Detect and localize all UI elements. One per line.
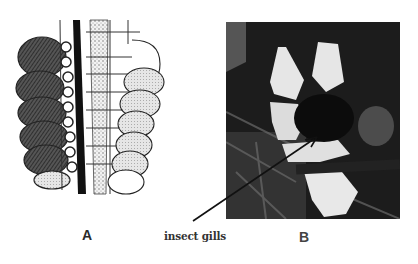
larva-photo-panel-b — [226, 22, 400, 219]
panel-b-label: B — [299, 229, 309, 245]
stippled-column — [90, 20, 108, 194]
right-gill-lamellae — [108, 40, 164, 194]
panel-a-label: A — [82, 227, 92, 243]
gill-drawing-panel-a — [10, 12, 170, 202]
insect-gills-caption: insect gills — [164, 230, 226, 242]
